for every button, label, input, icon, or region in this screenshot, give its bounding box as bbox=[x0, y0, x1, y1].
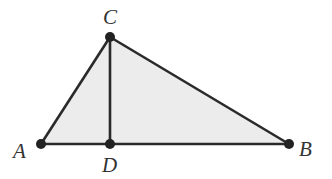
label-b: B bbox=[299, 137, 312, 161]
point-a-dot bbox=[36, 139, 46, 149]
triangle-abc-fill bbox=[41, 37, 289, 144]
label-a: A bbox=[11, 139, 26, 163]
label-d: D bbox=[101, 153, 117, 177]
triangle-diagram: C A D B bbox=[0, 0, 332, 179]
label-c: C bbox=[103, 5, 118, 29]
point-d-dot bbox=[105, 139, 115, 149]
point-c-dot bbox=[105, 32, 115, 42]
point-b-dot bbox=[284, 139, 294, 149]
